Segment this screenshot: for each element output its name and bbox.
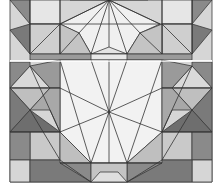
geometric-pattern xyxy=(0,0,218,187)
pattern-fills xyxy=(10,0,212,182)
separator-strip xyxy=(10,61,212,62)
